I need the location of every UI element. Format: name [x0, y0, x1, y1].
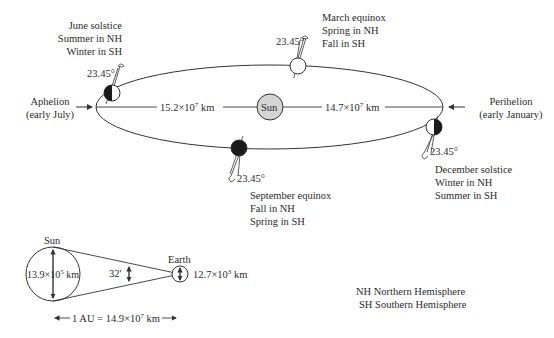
perihelion-distance: 14.7×107 km: [325, 101, 379, 114]
march-tilt-label: 23.45°: [276, 35, 304, 48]
aphelion-distance: 15.2×107 km: [160, 101, 214, 114]
december-tilt-label: 23.45°: [430, 145, 458, 158]
legend-nh: NH Northern Hemisphere: [356, 285, 466, 298]
sun-label: Sun: [261, 101, 277, 114]
scale-earth-diameter: 12.7×103 km: [193, 268, 247, 281]
september-tilt-label: 23.45°: [237, 172, 265, 185]
scale-sun-label: Sun: [44, 234, 60, 247]
march-equinox-label: March equinox Spring in NH Fall in SH: [322, 11, 386, 50]
june-solstice-label: June solstice Summer in NH Winter in SH: [40, 19, 122, 58]
au-distance-label: 1 AU = 14.9×107 km: [72, 312, 160, 325]
september-equinox-label: September equinox Fall in NH Spring in S…: [250, 189, 331, 228]
scale-diagram: [26, 247, 188, 318]
scale-sun-diameter: 13.9×105 km: [27, 268, 79, 281]
legend: NH Northern Hemisphere SH Southern Hemis…: [356, 285, 466, 311]
scale-angle: 32': [109, 267, 121, 280]
aphelion-label: Aphelion (early July): [22, 95, 78, 121]
legend-sh: SH Southern Hemisphere: [356, 298, 466, 311]
december-solstice-label: December solstice Winter in NH Summer in…: [435, 163, 512, 202]
june-tilt-label: 23.45°: [87, 67, 115, 80]
perihelion-label: Perihelion (early January): [468, 95, 554, 121]
scale-earth-label: Earth: [168, 253, 191, 266]
